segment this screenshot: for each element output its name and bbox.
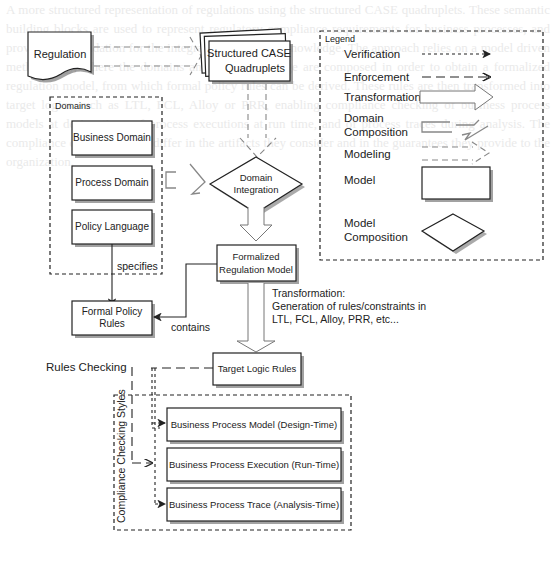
legend-model-label: Model <box>344 174 375 186</box>
policy-language-label: Policy Language <box>75 221 149 232</box>
legend-verification-label: Verification <box>344 48 400 60</box>
formalized-label-line1: Formalized <box>233 251 280 262</box>
bp-model-label: Business Process Model (Design-Time) <box>171 419 337 430</box>
regulation-node: Regulation <box>28 32 94 83</box>
domain-integration-label-line2: Integration <box>234 184 279 195</box>
modeling-arrow-quadruplets <box>240 84 276 157</box>
legend-modeling-label: Modeling <box>344 148 391 160</box>
domain-integration-label-line1: Domain <box>240 172 273 183</box>
policy-language-node: Policy Language <box>72 210 155 247</box>
legend-model-composition-shape <box>422 214 484 251</box>
specifies-label: specifies <box>117 260 158 272</box>
bp-trace-label: Business Process Trace (Analysis-Time) <box>169 499 339 510</box>
compliance-framework-diagram: Regulation Structured CASE Quadruplets D… <box>0 0 556 569</box>
legend-enforcement-label: Enforcement <box>344 71 410 83</box>
legend: Legend Verification Enforcement Transfor… <box>320 31 543 260</box>
transformation-label: Transformation: Generation of rules/cons… <box>272 287 426 325</box>
transformation-arrow-integration <box>240 207 272 241</box>
bp-trace-node: Business Process Trace (Analysis-Time) <box>167 488 344 524</box>
legend-domain-composition-line2: Composition <box>344 126 408 138</box>
quadruplets-label-line2: Quadruplets <box>225 62 285 74</box>
verification-line <box>152 368 160 428</box>
bp-execution-node: Business Process Execution (Run-Time) <box>167 448 344 484</box>
domain-composition-arrow <box>166 164 205 194</box>
quadruplets-label-line1: Structured CASE <box>207 47 291 59</box>
rules-checking-label: Rules Checking <box>46 361 127 373</box>
legend-domain-composition-arrow <box>422 120 488 140</box>
target-logic-rules-label: Target Logic Rules <box>218 363 297 374</box>
transformation-arrow-target <box>237 283 275 352</box>
domains-title: Domains <box>55 101 91 111</box>
legend-title: Legend <box>325 34 355 44</box>
bp-execution-label: Business Process Execution (Run-Time) <box>169 459 339 470</box>
legend-transformation-arrow <box>420 84 493 110</box>
legend-domain-composition-line1: Domain <box>344 112 384 124</box>
legend-modeling-arrow <box>422 142 489 164</box>
compliance-title: Compliance Checking Styles <box>115 389 127 523</box>
formal-policy-rules-node: Formal Policy Rules <box>72 301 155 338</box>
legend-model-composition-line1: Model <box>344 217 375 229</box>
modeling-arrow-regulation <box>94 37 201 75</box>
contains-edge <box>154 264 217 317</box>
formal-policy-rules-line2: Rules <box>99 318 125 329</box>
bp-model-node: Business Process Model (Design-Time) <box>167 408 344 444</box>
svg-text:LTL, FCL, Alloy, PRR, etc...: LTL, FCL, Alloy, PRR, etc... <box>272 313 399 325</box>
business-domain-label: Business Domain <box>73 132 151 143</box>
target-logic-rules-node: Target Logic Rules <box>213 353 304 388</box>
svg-text:Transformation:: Transformation: <box>272 287 345 299</box>
business-domain-node: Business Domain <box>72 121 155 158</box>
formalized-label-line2: Regulation Model <box>219 264 293 275</box>
process-domain-node: Process Domain <box>72 166 155 203</box>
svg-text:Generation of rules/constraint: Generation of rules/constraints in <box>272 300 426 312</box>
formalized-regulation-model-node: Formalized Regulation Model <box>217 245 299 284</box>
contains-label: contains <box>171 321 210 333</box>
formal-policy-rules-line1: Formal Policy <box>82 306 143 317</box>
legend-model-shape <box>422 167 490 199</box>
quadruplets-node: Structured CASE Quadruplets <box>200 29 293 84</box>
legend-model-composition-line2: Composition <box>344 231 408 243</box>
regulation-label: Regulation <box>34 48 87 60</box>
legend-transformation-label: Transformation <box>344 91 421 103</box>
process-domain-label: Process Domain <box>75 177 148 188</box>
